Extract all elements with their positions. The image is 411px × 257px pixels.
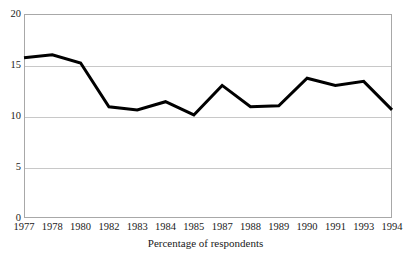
y-tick-label-10: 10: [0, 111, 21, 122]
x-tick-label-1978: 1978: [42, 221, 63, 233]
x-axis-tick-labels: 1977197819801982198319841985198719881989…: [24, 221, 392, 237]
x-tick-label-1985: 1985: [183, 221, 204, 233]
data-series-layer: [24, 14, 392, 218]
line-chart: 05101520 1977197819801982198319841985198…: [0, 0, 411, 257]
x-tick-label-1982: 1982: [98, 221, 119, 233]
y-tick-label-20: 20: [0, 9, 21, 20]
x-tick-label-1990: 1990: [297, 221, 318, 233]
x-tick-label-1977: 1977: [14, 221, 35, 233]
y-tick-label-5: 5: [0, 162, 21, 173]
series-line-percentage-of-respondents: [24, 55, 392, 115]
x-tick-label-1993: 1993: [353, 221, 374, 233]
x-tick-label-1991: 1991: [325, 221, 346, 233]
x-tick-label-1988: 1988: [240, 221, 261, 233]
x-tick-label-1980: 1980: [70, 221, 91, 233]
x-tick-label-1994: 1994: [382, 221, 403, 233]
y-tick-label-15: 15: [0, 60, 21, 71]
x-axis-title: Percentage of respondents: [0, 237, 411, 250]
x-tick-label-1983: 1983: [127, 221, 148, 233]
x-tick-label-1987: 1987: [212, 221, 233, 233]
x-tick-label-1984: 1984: [155, 221, 176, 233]
x-tick-label-1989: 1989: [268, 221, 289, 233]
clipped-header-text: [0, 0, 411, 6]
y-axis-tick-labels: 05101520: [0, 0, 21, 257]
